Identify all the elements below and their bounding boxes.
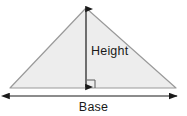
triangle-base-height-diagram: Height Base — [0, 0, 187, 116]
base-label: Base — [0, 101, 187, 114]
geometry-figure-canvas — [0, 0, 187, 116]
height-label: Height — [91, 45, 128, 58]
